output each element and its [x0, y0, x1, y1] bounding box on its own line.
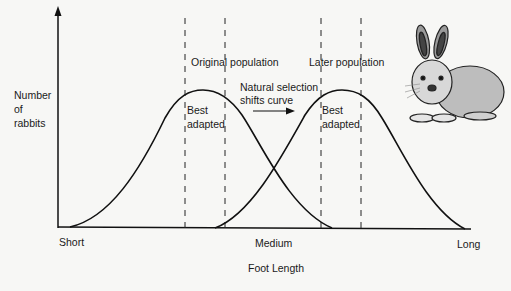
best-adapted-left-line2: adapted — [187, 118, 225, 131]
best-adapted-right-line1: Best — [322, 104, 343, 117]
x-axis — [58, 227, 471, 229]
shift-arrow-head-icon — [286, 108, 295, 115]
later-population-label: Later population — [309, 56, 384, 69]
x-axis-label: Foot Length — [248, 262, 304, 275]
x-tick-long: Long — [457, 238, 480, 251]
original-population-label: Original population — [191, 56, 279, 69]
best-adapted-right-line2: adapted — [322, 118, 360, 131]
y-axis-label-line1: Number — [14, 89, 51, 102]
shifts-curve-label: shifts curve — [240, 94, 293, 107]
rabbit-icon — [410, 24, 504, 122]
y-axis-label-line2: of — [14, 103, 23, 116]
y-axis-arrow-icon — [55, 6, 62, 16]
y-axis-label-line3: rabbits — [14, 117, 46, 130]
best-adapted-left-line1: Best — [187, 104, 208, 117]
x-tick-short: Short — [59, 236, 84, 249]
x-tick-medium: Medium — [255, 237, 292, 250]
natural-selection-label: Natural selection — [240, 81, 318, 94]
